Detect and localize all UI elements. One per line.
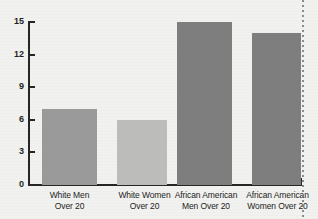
bar bbox=[177, 22, 232, 185]
y-axis-tick-mark bbox=[30, 184, 35, 186]
y-axis-tick-label: 12 bbox=[0, 50, 24, 59]
y-axis-tick-mark bbox=[30, 119, 35, 121]
y-axis-line bbox=[28, 21, 30, 186]
y-axis-tick-label: 6 bbox=[0, 115, 24, 124]
bar bbox=[252, 33, 301, 185]
y-axis-tick-mark bbox=[30, 151, 35, 153]
y-axis-tick-label: 9 bbox=[0, 82, 24, 91]
category-label-line: Women Over 20 bbox=[237, 201, 318, 212]
bar-chart-plot: 03691215 White MenOver 20White WomenOver… bbox=[0, 0, 318, 219]
y-axis-tick-mark bbox=[30, 86, 35, 88]
y-axis-tick-mark bbox=[30, 21, 35, 23]
y-axis-tick-label: 3 bbox=[0, 147, 24, 156]
y-axis-tick-label: 15 bbox=[0, 17, 24, 26]
bar bbox=[42, 109, 97, 185]
y-axis-tick-mark bbox=[30, 54, 35, 56]
y-axis-tick-label: 0 bbox=[0, 180, 24, 189]
category-label: African AmericanWomen Over 20 bbox=[237, 190, 318, 212]
bar bbox=[117, 120, 167, 185]
page-edge-dotted-line bbox=[302, 0, 304, 219]
chart-page: 03691215 White MenOver 20White WomenOver… bbox=[0, 0, 318, 219]
category-label-line: African American bbox=[237, 190, 318, 201]
